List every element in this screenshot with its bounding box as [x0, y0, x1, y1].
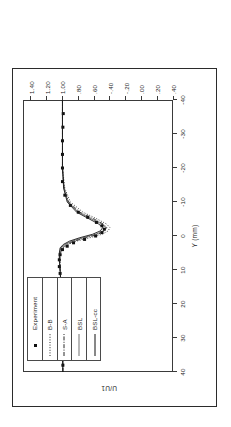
x-tick-mark: [173, 270, 177, 271]
y-tick-mark: [173, 96, 174, 100]
y-tick-mark: [30, 96, 31, 100]
x-tick-label: -30: [179, 129, 186, 139]
x-axis-title: Y (mm): [191, 225, 198, 248]
y-tick-label: .00: [138, 85, 145, 94]
x-tick-label: 40: [179, 368, 186, 375]
figure-page: 403020100-10-20-30-40 .40.20.00-.20-.40.…: [0, 0, 231, 427]
rotated-chart-container: 403020100-10-20-30-40 .40.20.00-.20-.40.…: [13, 69, 218, 408]
x-tick-mark: [173, 236, 177, 237]
legend-symbol-bsl-icon: [74, 333, 84, 357]
legend-symbol-experiment-icon: [30, 333, 40, 357]
figure-border: 403020100-10-20-30-40 .40.20.00-.20-.40.…: [12, 68, 217, 407]
x-tick-mark: [173, 100, 177, 101]
x-tick-mark: [173, 304, 177, 305]
y-axis-title: U/U1: [101, 385, 117, 392]
legend-item: BSL: [72, 278, 87, 360]
x-tick-label: 10: [179, 266, 186, 273]
x-tick-label: -40: [179, 95, 186, 105]
y-tick-mark: [94, 96, 95, 100]
x-tick-mark: [173, 202, 177, 203]
x-tick-label: 0: [179, 234, 186, 238]
x-tick-mark: [173, 338, 177, 339]
legend-symbol-b-b-icon: [45, 333, 55, 357]
y-tick-mark: [141, 96, 142, 100]
x-tick-label: 20: [179, 300, 186, 307]
legend-label: B-B: [46, 319, 53, 330]
legend-item: S-A: [58, 278, 73, 360]
y-tick-mark: [157, 96, 158, 100]
rotation-wrapper: 403020100-10-20-30-40 .40.20.00-.20-.40.…: [13, 69, 218, 408]
y-tick-mark: [78, 96, 79, 100]
y-tick-label: 1.00: [59, 81, 66, 94]
x-tick-label: -10: [179, 197, 186, 207]
chart: 403020100-10-20-30-40 .40.20.00-.20-.40.…: [13, 69, 218, 408]
legend-label: BSL: [76, 318, 83, 330]
y-tick-mark: [62, 96, 63, 100]
y-tick-label: 1.20: [43, 81, 50, 94]
y-tick-label: .60: [91, 85, 98, 94]
legend-label: S-A: [61, 319, 68, 330]
legend-symbol-s-a-icon: [59, 333, 69, 357]
y-tick-label: -.40: [106, 83, 113, 94]
y-tick-mark: [109, 96, 110, 100]
x-tick-label: 30: [179, 334, 186, 341]
x-tick-mark: [173, 168, 177, 169]
y-tick-label: -.20: [122, 83, 129, 94]
y-tick-label: .20: [154, 85, 161, 94]
legend: ExperimentB-BS-ABSLBSL-cc: [27, 277, 101, 361]
legend-label: BSL-cc: [91, 309, 98, 330]
x-tick-mark: [173, 134, 177, 135]
legend-item: BSL-cc: [87, 278, 102, 360]
y-tick-label: .40: [170, 85, 177, 94]
legend-label: Experiment: [31, 297, 38, 330]
y-tick-mark: [125, 96, 126, 100]
y-tick-label: 1.40: [27, 81, 34, 94]
legend-item: B-B: [43, 278, 58, 360]
y-tick-mark: [46, 96, 47, 100]
legend-item: Experiment: [28, 278, 43, 360]
legend-symbol-bsl-cc-icon: [90, 333, 100, 357]
x-tick-label: -20: [179, 163, 186, 173]
x-tick-mark: [173, 372, 177, 373]
y-tick-label: .80: [75, 85, 82, 94]
